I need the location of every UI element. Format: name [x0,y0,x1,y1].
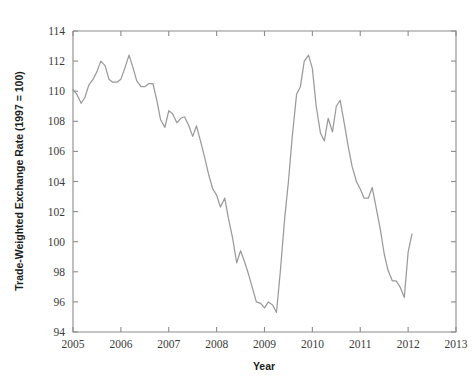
y-tick-label: 112 [48,55,65,67]
y-tick-label: 94 [54,326,66,338]
axis-frame [73,31,456,332]
y-tick-label: 98 [54,266,66,278]
x-tick-label: 2007 [157,338,180,350]
x-tick-label: 2008 [205,338,228,350]
x-tick-label: 2010 [301,338,324,350]
data-series-group [73,55,412,312]
x-tick-label: 2006 [109,338,132,350]
x-tick-label: 2005 [62,338,85,350]
x-tick-label: 2009 [253,338,276,350]
x-tick-label: 2012 [397,338,420,350]
y-axis-ticks: 949698100102104106108110112114 [48,25,456,338]
y-tick-label: 106 [48,145,66,157]
x-axis-ticks: 200520062007200820092010201120122013 [62,31,468,350]
line-chart-canvas: 949698100102104106108110112114 200520062… [0,0,472,378]
y-tick-label: 114 [48,25,65,37]
chart-figure: 949698100102104106108110112114 200520062… [0,0,472,378]
plot-frame [73,31,456,332]
x-tick-label: 2013 [445,338,468,350]
x-axis-title: Year [253,360,275,372]
x-tick-label: 2011 [349,338,372,350]
screenshot-root: 949698100102104106108110112114 200520062… [0,0,472,378]
y-tick-label: 104 [48,176,66,188]
y-tick-label: 96 [54,296,66,308]
y-tick-label: 100 [48,236,66,248]
y-axis-title: Trade-Weighted Exchange Rate (1997 = 100… [13,71,25,291]
y-tick-label: 108 [48,115,66,127]
series-line-exchange-rate [73,55,412,312]
y-tick-label: 102 [48,206,66,218]
y-tick-label: 110 [48,85,65,97]
